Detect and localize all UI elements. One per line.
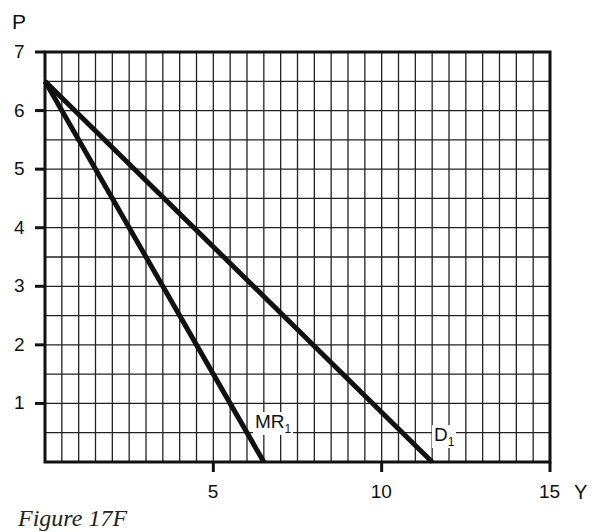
y-tick-label: 7	[14, 42, 25, 61]
y-tick-label: 6	[14, 101, 25, 120]
mr1-label-main: MR	[255, 411, 285, 432]
d1-label-sub: 1	[448, 435, 455, 449]
y-tick-label: 3	[14, 276, 25, 295]
d1-label-main: D	[434, 424, 448, 445]
figure-caption: Figure 17F	[18, 505, 127, 532]
line-d1	[45, 81, 432, 462]
x-tick-label: 15	[539, 482, 560, 501]
y-tick-label: 2	[14, 335, 25, 354]
mr1-label-sub: 1	[285, 422, 292, 436]
x-tick-label: 5	[208, 482, 219, 501]
x-tick-label: 10	[371, 482, 392, 501]
y-tick-label: 4	[14, 218, 25, 237]
x-axis-label: Y	[574, 482, 587, 502]
d1-label: D1	[432, 425, 456, 448]
mr1-label: MR1	[253, 412, 293, 435]
y-axis-label: P	[12, 11, 26, 32]
y-tick-label: 1	[14, 393, 25, 412]
line-mr1	[45, 81, 264, 462]
y-tick-label: 5	[14, 159, 25, 178]
